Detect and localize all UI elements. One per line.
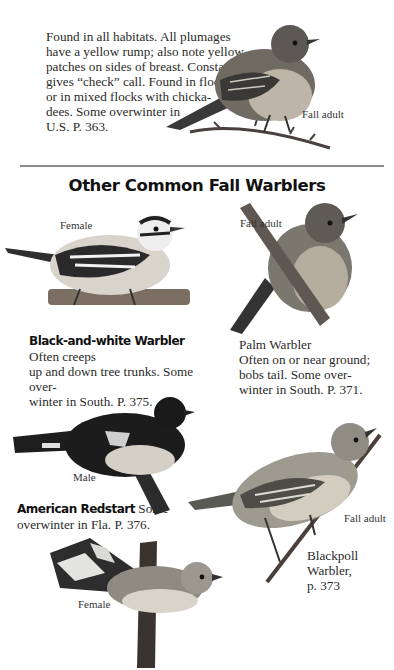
species-text: bobs tail. Some over- [239,367,394,382]
species-text: Some [138,501,168,516]
redstart-female-caption: Female [78,598,110,610]
american-redstart-female-illustration [45,533,225,668]
palm-caption: Fall adult [240,217,282,229]
species-text: Often creeps [29,349,96,364]
section-divider [20,165,384,167]
species-text: p. 373 [307,578,387,593]
species-name: Palm Warbler [239,337,394,352]
species-name: Warbler, [307,563,387,578]
black-and-white-caption: Female [60,219,92,231]
species-text: Often on or near ground; [239,352,394,367]
blackpoll-description: Blackpoll Warbler, p. 373 [307,548,387,593]
black-and-white-warbler-illustration [0,205,200,315]
species-text: winter in South. P. 371. [239,382,394,397]
section-title: Other Common Fall Warblers [0,176,394,195]
redstart-male-caption: Male [73,471,96,483]
species-name: Blackpoll [307,548,387,563]
intro-caption: Fall adult [302,108,344,120]
yellow-rumped-warbler-illustration [160,10,390,150]
species-name: American Redstart [17,502,135,516]
species-text: overwinter in Fla. P. 376. [17,517,197,532]
redstart-description: American Redstart Some overwinter in Fla… [17,501,197,532]
palm-description: Palm Warbler Often on or near ground; bo… [239,337,394,397]
species-name: Black-and-white Warbler [29,334,185,348]
blackpoll-caption: Fall adult [344,512,386,524]
species-text: up and down tree trunks. Some over- [29,364,209,394]
